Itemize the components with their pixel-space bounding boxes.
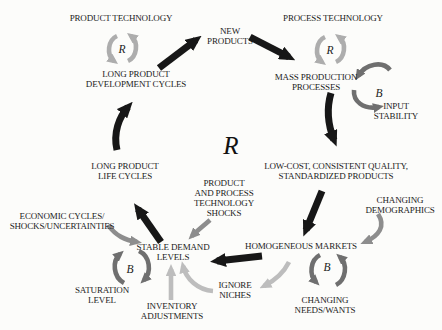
node-label: MASS PRODUCTION — [275, 72, 358, 82]
node-label: DEVELOPMENT CYCLES — [86, 79, 186, 89]
node-stable-demand-levels: STABLE DEMAND LEVELS — [136, 242, 209, 262]
changing-needs-loop-letter: B — [323, 261, 330, 273]
arrow-ignore-niches-to-stable-demand — [183, 266, 213, 291]
saturation-loop-letter: B — [126, 263, 133, 275]
node-ignore-niches: IGNORE NICHES — [218, 280, 251, 300]
process-technology-loop-letter: R — [326, 44, 333, 56]
node-label: PRODUCT — [194, 178, 254, 188]
node-label: ADJUSTMENTS — [141, 311, 203, 321]
node-long-product-development-cycles: LONG PRODUCT DEVELOPMENT CYCLES — [86, 69, 186, 89]
arrow-mass-production-to-low-cost — [328, 93, 334, 140]
node-label: PROCESS TECHNOLOGY — [283, 13, 383, 23]
node-label: IGNORE — [218, 280, 251, 290]
node-label: LEVELS — [136, 252, 209, 262]
input-stability-loop-letter: B — [375, 87, 382, 99]
node-label: LIFE CYCLES — [91, 171, 158, 181]
node-changing-needs-wants: CHANGING NEEDS/WANTS — [295, 295, 356, 315]
node-label: STABLE DEMAND — [136, 242, 209, 252]
node-label: STABILITY — [374, 111, 418, 121]
saturation-loop-left-arc — [115, 254, 124, 283]
changing-needs-loop-right-arc — [336, 257, 345, 285]
node-label: NEEDS/WANTS — [295, 305, 356, 315]
product-technology-loop-left-arc — [109, 36, 117, 61]
node-product-and-process-technology-shocks: PRODUCT AND PROCESS TECHNOLOGY SHOCKS — [194, 178, 254, 218]
central-reinforcing-loop-letter: R — [223, 132, 238, 160]
arrow-new-products-to-mass-production — [250, 37, 289, 57]
arrow-dev-cycles-to-new-products — [159, 40, 196, 68]
causal-loop-diagram: PRODUCT TECHNOLOGY NEW PRODUCTS PROCESS … — [0, 0, 442, 330]
node-label: STANDARDIZED PRODUCTS — [264, 171, 408, 181]
node-label: SHOCKS — [194, 208, 254, 218]
node-label: INPUT — [374, 101, 418, 111]
node-label: CHANGING — [365, 195, 434, 205]
node-label: TECHNOLOGY — [194, 198, 254, 208]
arrow-technology-shocks-to-stable-demand — [192, 220, 210, 236]
node-inventory-adjustments: INVENTORY ADJUSTMENTS — [141, 301, 203, 321]
node-label: LOW-COST, CONSISTENT QUALITY, — [264, 161, 408, 171]
node-label: PROCESSES — [275, 82, 358, 92]
node-long-product-life-cycles: LONG PRODUCT LIFE CYCLES — [91, 161, 158, 181]
node-label: NEW — [207, 26, 253, 36]
product-technology-loop-letter: R — [118, 43, 125, 55]
node-economic-cycles-shocks-uncertainties: ECONOMIC CYCLES/ SHOCKS/UNCERTAINTIES — [10, 211, 115, 231]
product-technology-loop-right-arc — [128, 36, 136, 61]
node-product-technology: PRODUCT TECHNOLOGY — [70, 13, 173, 23]
node-new-products: NEW PRODUCTS — [207, 26, 253, 46]
node-label: LEVEL — [75, 295, 129, 305]
process-technology-loop-left-arc — [317, 37, 325, 62]
node-label: SHOCKS/UNCERTAINTIES — [10, 221, 115, 231]
node-saturation-level: SATURATION LEVEL — [75, 285, 129, 305]
node-label: SATURATION — [75, 285, 129, 295]
arrow-changing-demographics-to-homogeneous-markets — [365, 214, 381, 242]
arrow-homogeneous-markets-to-ignore-niches — [264, 262, 289, 286]
node-label: HOMOGENEOUS MARKETS — [245, 241, 357, 251]
node-label: INVENTORY — [141, 301, 203, 311]
node-label: LONG PRODUCT — [86, 69, 186, 79]
arrow-stable-demand-to-long-life-cycles — [138, 209, 161, 242]
node-input-stability: INPUT STABILITY — [374, 101, 418, 121]
node-label: ECONOMIC CYCLES/ — [10, 211, 115, 221]
node-low-cost-consistent-quality: LOW-COST, CONSISTENT QUALITY, STANDARDIZ… — [264, 161, 408, 181]
node-label: AND PROCESS — [194, 188, 254, 198]
node-mass-production-processes: MASS PRODUCTION PROCESSES — [275, 72, 358, 92]
node-process-technology: PROCESS TECHNOLOGY — [283, 13, 383, 23]
node-label: LONG PRODUCT — [91, 161, 158, 171]
arrow-low-cost-to-homogeneous-markets — [306, 191, 322, 230]
process-technology-loop-right-arc — [336, 37, 344, 62]
node-changing-demographics: CHANGING DEMOGRAPHICS — [365, 195, 434, 215]
node-label: CHANGING — [295, 295, 356, 305]
node-homogeneous-markets: HOMOGENEOUS MARKETS — [245, 241, 357, 251]
changing-needs-loop-left-arc — [311, 255, 320, 282]
node-label: DEMOGRAPHICS — [365, 205, 434, 215]
arrow-homogeneous-markets-to-stable-demand — [217, 256, 262, 261]
node-label: PRODUCTS — [207, 36, 253, 46]
node-label: PRODUCT TECHNOLOGY — [70, 13, 173, 23]
input-stability-loop-top-arc — [358, 64, 390, 76]
node-label: NICHES — [218, 290, 251, 300]
arrow-long-life-cycles-to-dev-cycles — [116, 107, 128, 150]
